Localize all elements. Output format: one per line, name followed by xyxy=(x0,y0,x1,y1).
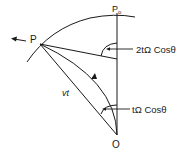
label-po: Po xyxy=(112,4,122,15)
line-p-to-vertical xyxy=(40,44,117,59)
label-angle-top: 2tΩ Cosθ xyxy=(136,44,176,55)
label-o: O xyxy=(112,139,120,150)
velocity-arrow-icon xyxy=(11,37,17,42)
line-p-to-o xyxy=(40,44,117,135)
pointer-top-arrow-icon xyxy=(106,47,110,50)
outer-arc xyxy=(27,15,135,62)
coriolis-diagram: Po P O vt 2tΩ Cosθ tΩ Cosθ xyxy=(0,0,191,155)
label-angle-bottom: tΩ Cosθ xyxy=(132,104,167,115)
label-vt: vt xyxy=(62,88,70,98)
trajectory-arrow-icon xyxy=(91,73,97,79)
label-p: P xyxy=(30,34,37,45)
